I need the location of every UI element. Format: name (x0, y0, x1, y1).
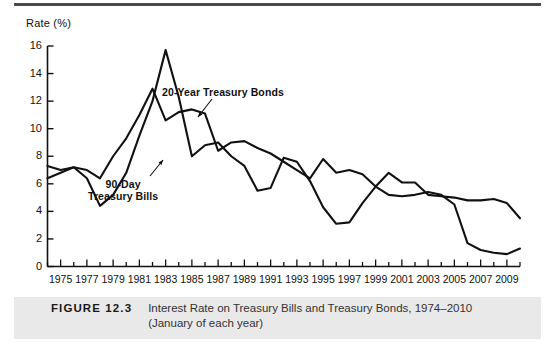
figure-caption-text: Interest Rate on Treasury Bills and Trea… (148, 301, 472, 331)
y-axis-tick-label: 8 (20, 150, 42, 161)
figure-caption-bar: FIGURE 12.3 Interest Rate on Treasury Bi… (14, 297, 541, 339)
chart-axes (48, 46, 521, 267)
figure-number-label: FIGURE 12.3 (51, 301, 132, 314)
caption-line-2: (January of each year) (148, 316, 472, 331)
x-axis-tick-label: 2009 (490, 274, 524, 285)
annotation-bills-line1: 90-Day (106, 178, 141, 190)
y-axis-tick-label: 4 (20, 205, 42, 216)
y-axis-tick-label: 16 (20, 40, 42, 51)
caption-line-1: Interest Rate on Treasury Bills and Trea… (148, 302, 472, 314)
chart-figure: Rate (%) 0246810121416 19751977197919811… (0, 0, 550, 292)
y-axis-tick-label: 10 (20, 123, 42, 134)
series-line-90-day-treasury-bills (48, 50, 521, 254)
y-axis-tick-label: 14 (20, 68, 42, 79)
chart-tick-marks (48, 46, 521, 267)
annotation-bills-line2: Treasury Bills (88, 190, 158, 202)
annotation-90-day-treasury-bills: 90-Day Treasury Bills (88, 178, 158, 202)
y-axis-tick-label: 2 (20, 233, 42, 244)
y-axis-tick-label: 0 (20, 261, 42, 272)
annotation-20-year-treasury-bonds: 20-Year Treasury Bonds (162, 86, 284, 98)
line-chart-plot (0, 0, 550, 292)
chart-series-lines (48, 50, 521, 254)
y-axis-tick-label: 12 (20, 95, 42, 106)
y-axis-tick-label: 6 (20, 178, 42, 189)
